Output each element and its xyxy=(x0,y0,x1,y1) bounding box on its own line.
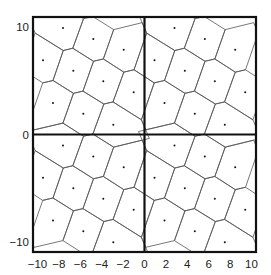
voronoi-cell xyxy=(33,17,84,51)
seed-point xyxy=(214,198,216,200)
voronoi-cell xyxy=(141,198,185,247)
y-tick-label: −10 xyxy=(9,236,29,248)
seed-point xyxy=(244,91,246,93)
voronoi-cell xyxy=(33,151,63,201)
x-tick-label: 0 xyxy=(141,258,147,270)
seed-point xyxy=(62,145,64,147)
seed-point xyxy=(72,187,74,189)
x-tick-label: −2 xyxy=(117,258,130,270)
voronoi-cell xyxy=(33,123,84,168)
x-tick-label: −8 xyxy=(52,258,65,270)
voronoi-cell xyxy=(103,140,146,190)
seed-point xyxy=(92,38,94,40)
voronoi-cell xyxy=(103,23,146,73)
x-tick-label: 2 xyxy=(163,258,169,270)
seed-point xyxy=(154,177,156,179)
seed-point xyxy=(123,49,125,51)
seed-point xyxy=(52,220,54,222)
y-tick-label: 0 xyxy=(23,129,29,141)
plot-frame xyxy=(33,17,256,252)
seed-point xyxy=(42,59,44,61)
seed-point xyxy=(164,220,166,222)
seed-point xyxy=(133,209,135,211)
seed-point xyxy=(234,166,236,168)
voronoi-cell xyxy=(204,102,256,147)
x-axis-tick-labels: −10−8−6−4−20246810 xyxy=(28,258,258,270)
seed-point xyxy=(72,70,74,72)
voronoi-cell xyxy=(33,198,73,247)
seed-point xyxy=(244,209,246,211)
seed-point xyxy=(154,59,156,61)
y-tick-label: 10 xyxy=(16,21,29,33)
seed-point xyxy=(204,38,206,40)
voronoi-cell xyxy=(134,33,175,83)
seed-point xyxy=(52,102,54,104)
voronoi-cell xyxy=(93,219,148,252)
x-tick-label: 8 xyxy=(227,258,233,270)
seed-point xyxy=(92,156,94,158)
x-tick-label: −10 xyxy=(28,258,48,270)
seed-point xyxy=(194,113,196,115)
seed-point xyxy=(224,241,226,243)
seed-point xyxy=(112,241,114,243)
voronoi-cell xyxy=(139,123,196,168)
seed-point xyxy=(174,145,176,147)
seed-point xyxy=(194,230,196,232)
voronoi-cell xyxy=(215,140,256,190)
seed-point xyxy=(224,124,226,126)
seed-point xyxy=(42,177,44,179)
voronoi-cell xyxy=(33,33,63,83)
seed-point xyxy=(204,156,206,158)
x-tick-label: 10 xyxy=(245,258,258,270)
voronoi-cell xyxy=(141,80,185,129)
seed-point xyxy=(82,113,84,115)
seed-point xyxy=(102,80,104,82)
voronoi-cell xyxy=(33,80,73,129)
voronoi-cell xyxy=(113,187,154,237)
seed-point xyxy=(164,102,166,104)
seed-point xyxy=(82,230,84,232)
seed-point xyxy=(133,91,135,93)
x-tick-label: −4 xyxy=(95,258,109,270)
y-axis-tick-labels: 100−10 xyxy=(9,21,29,248)
voronoi-cell xyxy=(215,23,256,73)
seed-point xyxy=(234,49,236,51)
seed-point xyxy=(214,80,216,82)
seed-point xyxy=(112,124,114,126)
seed-point xyxy=(184,70,186,72)
voronoi-cell xyxy=(113,70,154,120)
x-tick-label: 4 xyxy=(184,258,191,270)
seed-point xyxy=(62,27,64,29)
seed-point xyxy=(102,198,104,200)
x-tick-label: −6 xyxy=(74,258,87,270)
voronoi-cell xyxy=(134,151,175,201)
x-tick-label: 6 xyxy=(205,258,211,270)
seed-point xyxy=(184,187,186,189)
voronoi-cell xyxy=(204,219,256,252)
seed-point xyxy=(174,27,176,29)
seed-point xyxy=(123,166,125,168)
voronoi-chart: −10−8−6−4−20246810 100−10 xyxy=(0,0,271,275)
